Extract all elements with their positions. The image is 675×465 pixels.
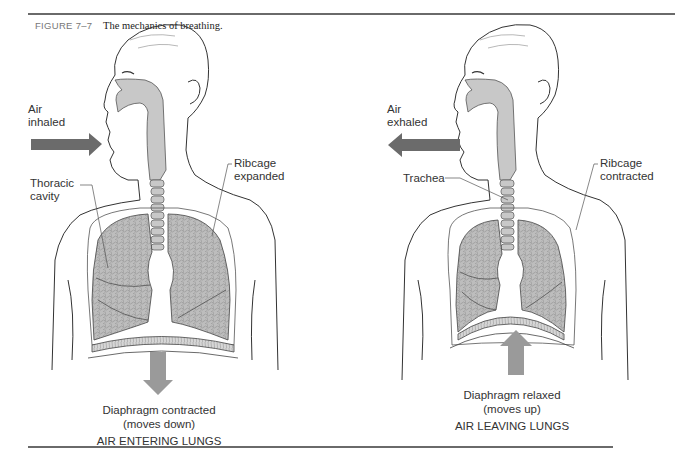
- diaphragm-down-arrow: [143, 352, 173, 395]
- air-inhaled-label: Air inhaled: [28, 103, 65, 129]
- exhalation-figure: [402, 25, 628, 380]
- ribcage-expanded-label: Ribcage expanded: [234, 157, 285, 183]
- air-exhaled-arrow: [388, 133, 460, 157]
- diaphragm-up-arrow: [500, 330, 532, 375]
- air-exhaled-line2: exhaled: [387, 116, 427, 129]
- trachea-text: Trachea: [403, 172, 445, 185]
- ribcage-contracted-line2: contracted: [600, 170, 654, 183]
- exhalation-caption: Diaphragm relaxed (moves up) AIR LEAVING…: [455, 388, 569, 433]
- moves-down-text: (moves down): [97, 417, 222, 431]
- air-leaving-lungs-text: AIR LEAVING LUNGS: [455, 419, 569, 433]
- moves-up-text: (moves up): [455, 402, 569, 416]
- air-exhaled-label: Air exhaled: [387, 103, 427, 129]
- air-exhaled-line1: Air: [387, 103, 427, 116]
- air-entering-lungs-text: AIR ENTERING LUNGS: [97, 434, 222, 448]
- diaphragm-relaxed-text: Diaphragm relaxed: [455, 388, 569, 402]
- thoracic-line1: Thoracic: [30, 177, 74, 190]
- diaphragm-contracted-text: Diaphragm contracted: [97, 403, 222, 417]
- inhalation-figure: [52, 25, 278, 370]
- breathing-illustration: [0, 0, 675, 465]
- ribcage-expanded-line1: Ribcage: [234, 157, 285, 170]
- air-inhaled-arrow: [31, 133, 102, 156]
- ribcage-contracted-line1: Ribcage: [600, 157, 654, 170]
- trachea-label: Trachea: [403, 172, 445, 185]
- air-inhaled-line2: inhaled: [28, 116, 65, 129]
- air-inhaled-line1: Air: [28, 103, 65, 116]
- inhalation-caption: Diaphragm contracted (moves down) AIR EN…: [97, 403, 222, 448]
- thoracic-line2: cavity: [30, 190, 74, 203]
- ribcage-contracted-label: Ribcage contracted: [600, 157, 654, 183]
- thoracic-cavity-label: Thoracic cavity: [30, 177, 74, 203]
- ribcage-expanded-line2: expanded: [234, 170, 285, 183]
